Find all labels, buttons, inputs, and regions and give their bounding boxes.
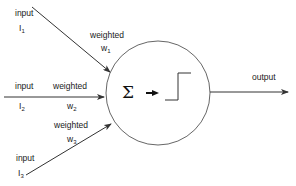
weight-3-symbol: w3 (67, 135, 76, 145)
input-3-symbol: I3 (18, 169, 24, 179)
perceptron-diagram (0, 0, 296, 186)
summation-symbol: Σ (122, 84, 134, 101)
input-2-label: input (15, 82, 33, 91)
weight-1-label: weighted (90, 31, 124, 40)
weight-3-label: weighted (54, 121, 88, 130)
input-3-label: input (16, 154, 34, 163)
step-function-icon (165, 73, 191, 100)
weight-2-symbol: w2 (67, 102, 76, 112)
input-1-label: input (15, 9, 33, 18)
input-3-arrow (26, 124, 111, 175)
weight-1-symbol: w1 (101, 44, 110, 54)
output-label: output (252, 73, 276, 82)
input-1-symbol: I1 (19, 24, 25, 34)
input-2-symbol: I2 (19, 102, 25, 112)
weight-2-label: weighted (53, 82, 87, 91)
